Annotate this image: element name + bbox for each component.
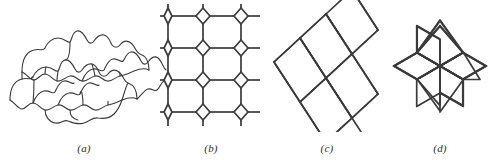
figure-caption-c: (c) <box>266 143 388 154</box>
figure-panel-c: (c) <box>266 0 388 160</box>
figure-panel-b: (b) <box>156 0 266 160</box>
figure-plate: (a) <box>0 0 492 160</box>
figure-panel-d: (d) <box>388 0 492 160</box>
escher-bat-tessellation <box>0 0 168 132</box>
rhombic-tiling-parallelogram <box>266 0 388 132</box>
figure-panel-a: (a) <box>0 0 168 160</box>
figure-caption-b: (b) <box>156 143 266 154</box>
square-lattice-with-diamond-nodes <box>156 0 266 132</box>
figure-caption-a: (a) <box>0 143 168 154</box>
figure-caption-d: (d) <box>388 143 492 154</box>
six-rhombus-star <box>388 0 492 132</box>
